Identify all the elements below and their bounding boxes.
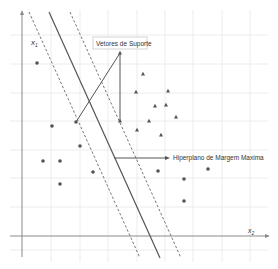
circle-point [35,61,39,65]
circle-point [74,120,78,124]
circle-point [58,182,62,186]
circle-point [58,159,62,163]
triangle-point [166,89,170,93]
triangle-point [159,133,163,137]
triangle-point [153,104,157,108]
svm-diagram: x1 x2 Vetores de Suporte Hiperplano de M… [0,0,278,269]
circle-point [182,177,186,181]
circle-point [206,167,210,171]
diagram-canvas: x1 x2 Vetores de Suporte Hiperplano de M… [0,0,278,269]
triangle-point [141,72,145,76]
y-axis-arrow-icon [20,10,24,15]
hyperplane-label: Hiperplano de Margem Maxima [173,154,264,162]
x-axis-label: x2 [247,227,255,236]
triangle-point [118,51,122,55]
class-a-points [35,61,210,203]
circle-point [78,144,82,148]
triangle-point [174,115,178,119]
hyperplane-arrow-icon [165,156,170,160]
circle-point [41,159,45,163]
circle-point [91,170,95,174]
circle-point [182,199,186,203]
x-axis-arrow-icon [265,234,270,238]
support-vectors-label: Vetores de Suporte [96,40,152,48]
circle-point [156,169,160,173]
circle-point [50,124,54,128]
y-axis-label: x1 [30,38,38,48]
triangle-point [135,128,139,132]
